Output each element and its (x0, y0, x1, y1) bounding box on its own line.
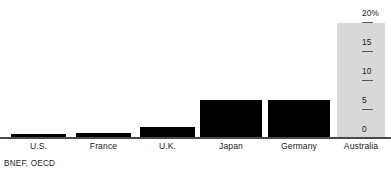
bar-germany (268, 100, 330, 138)
y-tick-mark-20 (362, 22, 373, 23)
y-tick-label-5: 5 (362, 96, 367, 105)
axis-baseline (0, 137, 391, 139)
y-tick-label-20: 20% (362, 9, 379, 18)
bar-slot-france (76, 0, 131, 140)
bar-japan (200, 100, 262, 138)
y-tick-mark-10 (362, 80, 373, 81)
source-note: BNEF, OECD (4, 159, 55, 169)
x-label-germany: Germany (268, 141, 330, 152)
y-tick-label-15: 15 (362, 38, 371, 47)
x-label-australia: Australia (332, 141, 390, 152)
y-tick-mark-5 (362, 109, 373, 110)
y-tick-label-10: 10 (362, 67, 371, 76)
bar-slot-germany (268, 0, 330, 140)
plot-area (0, 0, 355, 140)
x-label-japan: Japan (200, 141, 262, 152)
bar-slot-japan (200, 0, 262, 140)
x-label-uk: U.K. (140, 141, 195, 152)
x-label-us: U.S. (11, 141, 66, 152)
x-label-france: France (76, 141, 131, 152)
bar-slot-us (11, 0, 66, 140)
y-tick-label-0: 0 (362, 125, 367, 134)
y-axis: 20% 15 10 5 0 (357, 0, 391, 145)
bar-chart: 20% 15 10 5 0 U.S. France U.K. Japan Ger… (0, 0, 391, 175)
x-axis: U.S. France U.K. Japan Germany Australia (0, 141, 355, 155)
bar-slot-uk (140, 0, 195, 140)
y-tick-mark-15 (362, 51, 373, 52)
